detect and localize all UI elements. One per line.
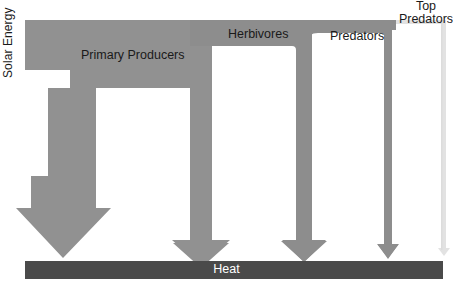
label-solar-energy: Solar Energy xyxy=(2,7,15,78)
label-top-predators: TopPredators xyxy=(398,0,453,27)
label-predators: Predators xyxy=(330,30,384,44)
label-top-predators-line2: Predators xyxy=(398,13,453,26)
label-primary-producers: Primary Producers xyxy=(81,49,185,63)
energy-flow-diagram: Solar Energy Primary Producers Herbivore… xyxy=(0,0,453,293)
top-predators-right-edge xyxy=(441,20,442,250)
top-predators-stem xyxy=(378,20,398,259)
energy-flow-svg xyxy=(0,0,453,293)
label-heat: Heat xyxy=(0,263,453,277)
label-herbivores: Herbivores xyxy=(228,28,288,42)
predators-heat-column xyxy=(281,26,327,262)
label-top-predators-line1: Top xyxy=(398,0,453,13)
